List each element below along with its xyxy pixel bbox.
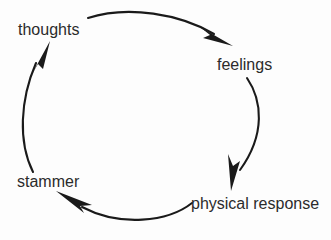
arrowhead-thoughts-to-feelings (200, 27, 233, 46)
arrow-feelings-to-physical-response (228, 78, 259, 191)
node-label-physical-response: physical response (191, 195, 319, 213)
cycle-diagram: thoughts feelings physical response stam… (0, 0, 331, 240)
node-label-thoughts: thoughts (18, 21, 79, 39)
arrow-thoughts-to-feelings (88, 12, 233, 46)
arrow-stammer-to-thoughts (23, 41, 50, 172)
arrowhead-feelings-to-physical-response (228, 154, 240, 191)
node-label-stammer: stammer (17, 173, 79, 191)
arc-feelings-to-physical-response (240, 78, 259, 170)
arrow-physical-response-to-stammer (56, 191, 192, 220)
node-label-feelings: feelings (217, 56, 272, 74)
arc-physical-response-to-stammer (82, 203, 192, 220)
arrowhead-stammer-to-thoughts (32, 41, 50, 74)
arc-thoughts-to-feelings (88, 12, 214, 34)
arc-stammer-to-thoughts (23, 63, 36, 172)
